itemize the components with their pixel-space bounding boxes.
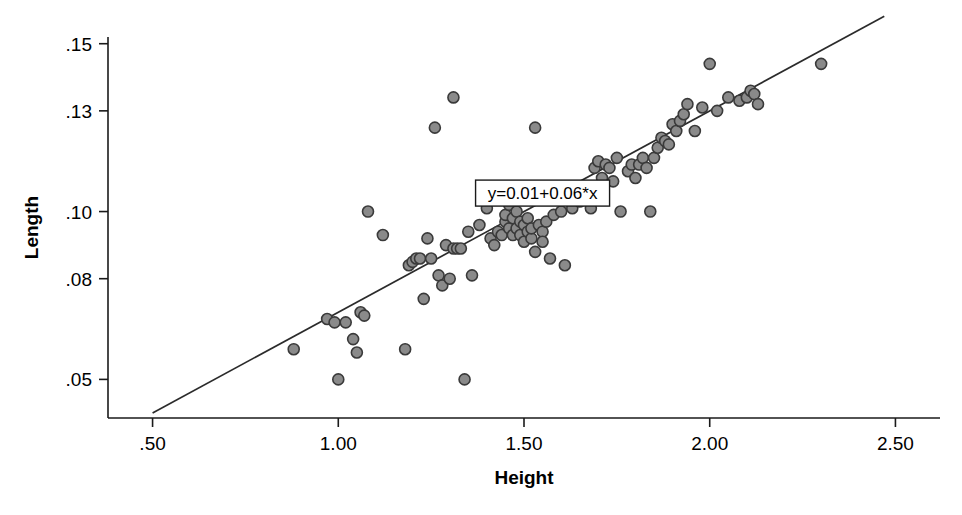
scatter-point [426, 253, 437, 264]
x-tick-label: 1.50 [506, 433, 543, 454]
equation-annotation: y=0.01+0.06*x [476, 180, 610, 206]
scatter-point [753, 99, 764, 110]
scatter-point [545, 253, 556, 264]
y-axis-title: Length [21, 196, 42, 259]
scatter-point [556, 206, 567, 217]
scatter-point [489, 240, 500, 251]
scatter-point [455, 243, 466, 254]
scatter-point [377, 230, 388, 241]
scatter-point [641, 162, 652, 173]
scatter-point [459, 374, 470, 385]
x-axis-title: Height [494, 467, 554, 488]
scatter-point [611, 152, 622, 163]
scatter-point [689, 125, 700, 136]
scatter-point [351, 347, 362, 358]
y-tick-label: .08 [66, 269, 92, 290]
scatter-point [645, 206, 656, 217]
scatter-chart-figure: .05.08.10.13.15.501.001.502.002.50Height… [0, 0, 962, 515]
scatter-point [415, 253, 426, 264]
scatter-point [448, 92, 459, 103]
scatter-point [329, 317, 340, 328]
x-tick-label: 1.00 [320, 433, 357, 454]
scatter-point [559, 260, 570, 271]
scatter-point [530, 122, 541, 133]
scatter-point [422, 233, 433, 244]
scatter-point [530, 246, 541, 257]
scatter-point [615, 206, 626, 217]
scatter-point [400, 344, 411, 355]
scatter-point [682, 99, 693, 110]
scatter-point [359, 310, 370, 321]
scatter-point [463, 226, 474, 237]
scatter-point [630, 172, 641, 183]
scatter-point [429, 122, 440, 133]
x-tick-label: 2.00 [691, 433, 728, 454]
scatter-point [340, 317, 351, 328]
scatter-point [816, 58, 827, 69]
equation-annotation-text: y=0.01+0.06*x [488, 184, 598, 203]
scatter-point [467, 270, 478, 281]
scatter-point [418, 293, 429, 304]
scatter-point [333, 374, 344, 385]
scatter-point [348, 334, 359, 345]
scatter-point [363, 206, 374, 217]
y-tick-label: .10 [66, 202, 92, 223]
x-tick-label: .50 [139, 433, 165, 454]
scatter-point [663, 139, 674, 150]
scatter-point [444, 273, 455, 284]
scatter-point [723, 92, 734, 103]
y-tick-label: .15 [66, 34, 92, 55]
plot-area: .05.08.10.13.15.501.001.502.002.50Height… [0, 0, 962, 515]
y-tick-label: .05 [66, 369, 92, 390]
scatter-point [704, 58, 715, 69]
scatter-point [288, 344, 299, 355]
scatter-points-group [288, 58, 826, 385]
scatter-point [537, 236, 548, 247]
scatter-point [474, 219, 485, 230]
scatter-point [697, 102, 708, 113]
y-tick-label: .13 [66, 101, 92, 122]
scatter-point [712, 105, 723, 116]
scatter-point [604, 162, 615, 173]
x-tick-label: 2.50 [877, 433, 914, 454]
